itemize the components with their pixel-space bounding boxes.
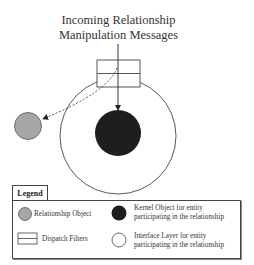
relationship-object-circle	[15, 113, 42, 140]
legend-label-relationship-object: Relationship Object	[34, 210, 91, 219]
legend-white-circle-icon	[110, 231, 128, 249]
kernel-object-circle	[95, 110, 141, 156]
legend-title: Legend	[12, 185, 48, 201]
legend-gray-circle-icon	[17, 206, 33, 222]
legend-black-circle-icon	[110, 204, 128, 222]
legend-kernel-line-2: participating in the relationship	[134, 213, 224, 222]
legend-label-dispatch-filters: Dispatch Filters	[42, 235, 88, 244]
legend-interface-line-1: Interface Layer for entity	[134, 232, 224, 241]
legend-kernel-line-1: Kernel Object for entity	[134, 204, 224, 213]
legend-label-interface-layer: Interface Layer for entity participating…	[134, 232, 224, 250]
legend-box: Relationship Object Dispatch Filters Ker…	[12, 200, 241, 259]
legend-label-kernel-object: Kernel Object for entity participating i…	[134, 204, 224, 222]
legend-dispatch-filter-icon	[17, 232, 39, 246]
dispatch-filter-box	[97, 60, 140, 87]
legend-interface-line-2: participating in the relationship	[134, 241, 224, 250]
